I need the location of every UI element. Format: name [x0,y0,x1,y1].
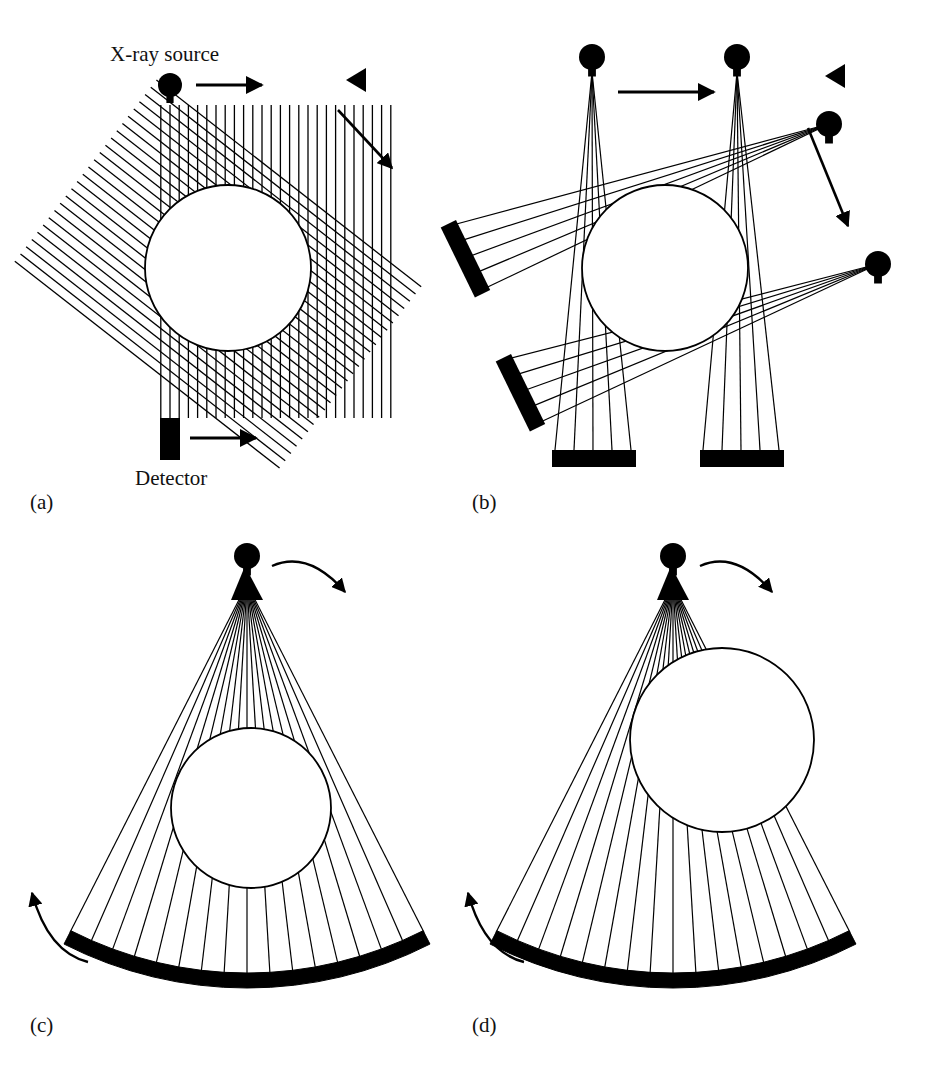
rotation-triangle [825,64,845,88]
caption-b: (b) [472,490,497,515]
panel-c-group [32,543,430,988]
phantom-circle [145,185,311,351]
rotation-arrow [338,110,392,168]
source-right-lower-neck [874,271,882,283]
panel-b-group [441,44,891,467]
source-upper-right-neck [733,64,741,76]
rotation-triangle [346,68,366,92]
xray-source-neck [669,563,677,575]
xray-source-label: X-ray source [110,42,219,67]
source-right-upper-neck [825,131,833,143]
xray-source-neck [243,563,251,575]
detector-bottom-right [700,450,784,467]
panel-a-group [15,68,421,468]
caption-c: (c) [30,1013,53,1038]
rotation-arrow-top [700,562,772,592]
caption-d: (d) [472,1013,497,1038]
figure-artwork [0,0,927,1071]
source-upper-left-neck [588,64,596,76]
phantom-circle [582,185,748,351]
detector-label: Detector [135,466,207,491]
panel-d-group [468,543,856,988]
phantom-circle [171,728,331,888]
detector-left-lower [496,354,545,432]
caption-a: (a) [30,490,53,515]
phantom-circle [630,648,814,832]
detector-bottom-left [552,450,636,467]
xray-source-neck [166,92,173,103]
detector-left-upper [441,220,490,298]
detector-block [160,418,180,460]
ct-generations-figure: X-ray source Detector (a) (b) (c) (d) [0,0,927,1071]
rotation-arrow-top [272,562,345,592]
